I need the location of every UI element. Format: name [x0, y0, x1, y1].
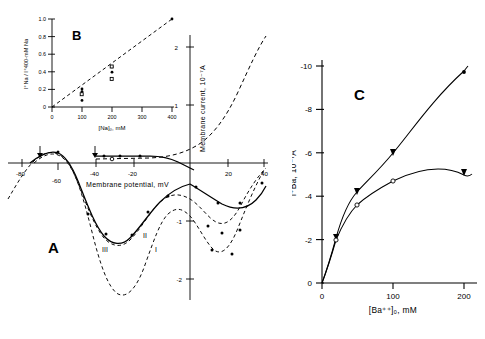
panel-c-letter: C — [354, 86, 365, 103]
panel-b-y-ticks — [48, 19, 55, 107]
panel-b-xtick-3: 300 — [138, 114, 147, 120]
panel-b-ytick-2: 0.4 — [39, 69, 47, 75]
panel-b: 0 0.2 0.4 0.6 0.8 1.0 0 100 200 300 400 … — [14, 4, 189, 139]
panel-b-letter: B — [72, 28, 81, 43]
panel-c-xtick-2: 200 — [457, 292, 471, 301]
panel-c-curve-upper — [322, 66, 468, 283]
panel-c-x-axis-label: [Ba⁺⁺]₀, mM — [369, 305, 417, 315]
panel-b-ytick-0: 0 — [43, 104, 46, 110]
panel-c-ytick-2: -4 — [305, 192, 313, 201]
panel-a-xtick-2: -40 — [90, 170, 100, 177]
panel-a-curve-label-ii: II — [143, 232, 147, 239]
panel-c-curve-lower — [322, 169, 472, 283]
panel-c-ytick-3: -6 — [305, 149, 313, 158]
panel-c-y-axis-label: I⁺Ba, 10⁻⁷A — [292, 150, 298, 197]
panel-c-ytick-0: 0 — [308, 279, 313, 288]
panel-c-ytick-1: -2 — [305, 236, 313, 245]
panel-b-x-axis-label: [Na]₀, mM — [99, 125, 126, 131]
panel-a-y-axis-label: Membrane current, 10⁻⁷A — [199, 65, 206, 152]
panel-b-xtick-0: 0 — [51, 114, 54, 120]
panel-c-points-upper — [333, 70, 466, 240]
panel-c-y-ticks — [316, 66, 324, 283]
panel-a-xtick-4: 20 — [225, 170, 232, 177]
panel-a-ytick-2: -1 — [176, 218, 182, 225]
panel-a-x-axis-label: Membrane potential, mV — [86, 181, 169, 189]
panel-c: 0 -2 -4 -6 -8 -10 0 100 200 [Ba⁺⁺]₀, mM … — [292, 38, 482, 338]
panel-b-data-points — [80, 18, 173, 102]
panel-c-points-lower — [334, 169, 467, 242]
panel-b-ytick-5: 1.0 — [39, 16, 47, 22]
panel-a-xtick-1: -60 — [52, 177, 62, 184]
panel-a-x-ticks — [22, 159, 264, 170]
panel-b-ytick-4: 0.8 — [39, 34, 47, 40]
panel-c-ytick-5: -10 — [300, 62, 312, 71]
panel-a-data-points — [57, 151, 264, 256]
panel-b-x-ticks — [52, 107, 172, 112]
panel-b-xtick-4: 400 — [168, 114, 177, 120]
panel-b-xtick-1: 100 — [78, 114, 87, 120]
panel-c-xtick-1: 100 — [386, 292, 400, 301]
panel-b-ytick-1: 0.2 — [39, 86, 47, 92]
panel-a-letter: A — [48, 239, 59, 256]
panel-a-xtick-3: -20 — [128, 170, 138, 177]
panel-b-xtick-2: 200 — [108, 114, 117, 120]
panel-c-x-ticks — [322, 283, 464, 289]
panel-b-ytick-3: 0.6 — [39, 51, 47, 57]
panel-a-xtick-0: -80 — [16, 170, 26, 177]
panel-a-curve-ii — [34, 154, 266, 245]
panel-a-curve-label-i: I — [155, 246, 157, 253]
panel-b-y-axis-label: I⁺Na / I⁺400-mM Na — [23, 38, 29, 89]
panel-a-ytick-3: -2 — [176, 276, 182, 283]
panel-c-ytick-4: -8 — [305, 105, 313, 114]
panel-c-xtick-0: 0 — [320, 292, 325, 301]
figure-root: -80 -60 -40 -20 20 40 2 1 -1 -2 Membrane… — [0, 0, 485, 339]
panel-b-fit-line — [52, 19, 172, 107]
panel-a-curve-label-iii: III — [102, 246, 108, 253]
